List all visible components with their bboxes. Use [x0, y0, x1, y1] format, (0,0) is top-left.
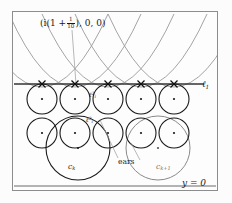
- apex-pointer-line: [72, 30, 76, 84]
- parabola-5: [108, 14, 232, 87]
- center-dot-row1-3: [107, 98, 109, 100]
- apex-coordinate-label: (i(1 +110), 0, 0): [40, 17, 105, 30]
- circle-label-li2: ℓ2i: [89, 92, 96, 100]
- circle-label-li3: ℓ3i: [86, 117, 93, 125]
- ck1-subscript: k+1: [160, 165, 171, 171]
- diagram-canvas: [0, 0, 232, 203]
- apex-fraction-denominator: 10: [67, 24, 75, 30]
- apex-suffix: ), 0, 0): [76, 18, 106, 28]
- figure-page: (i(1 +110), 0, 0) ℓ1 ℓ2i ℓ3i ck ck+1 ear…: [0, 0, 232, 203]
- apex-fraction: 110: [67, 17, 75, 30]
- ck-label: ck: [68, 163, 75, 172]
- center-dot-row2-1: [41, 132, 43, 134]
- line-l1-label: ℓ1: [202, 80, 209, 90]
- center-dot-row2-3: [107, 132, 109, 134]
- center-dot-row1-1: [41, 98, 43, 100]
- center-dot-row1-5: [173, 98, 175, 100]
- axis-label-y0: y = 0: [182, 179, 206, 188]
- center-dot-row2-5: [173, 132, 175, 134]
- ck1-label: ck+1: [156, 163, 171, 172]
- li3-subscript: i: [92, 119, 93, 124]
- ears-leader-left: [100, 120, 118, 158]
- ears-leader-group: [100, 120, 140, 160]
- li2-subscript: i: [95, 94, 96, 99]
- ears-label: ears: [118, 158, 134, 166]
- center-dot-row1-2: [74, 98, 76, 100]
- parabola-group: [0, 14, 232, 87]
- top-row-center-dots: [41, 98, 175, 100]
- big-circle-ck1-center-dot: [157, 147, 159, 149]
- line-l1-subscript: 1: [206, 84, 210, 90]
- apex-prefix: (i(1 +: [40, 18, 66, 28]
- ck-subscript: k: [72, 165, 75, 171]
- center-dot-row2-4: [140, 132, 142, 134]
- center-dot-row1-4: [140, 98, 142, 100]
- center-dot-row2-2: [74, 132, 76, 134]
- second-row-center-dots: [41, 132, 175, 134]
